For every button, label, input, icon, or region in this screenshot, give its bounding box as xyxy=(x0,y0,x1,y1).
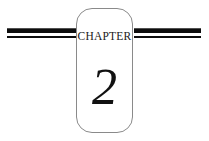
right-thick-rule xyxy=(134,28,201,33)
right-thin-rule xyxy=(134,36,201,38)
chapter-number: 2 xyxy=(76,61,133,113)
chapter-box: CHAPTER 2 xyxy=(76,8,133,133)
left-thin-rule xyxy=(7,36,76,38)
chapter-label: CHAPTER xyxy=(77,31,132,43)
left-thick-rule xyxy=(7,28,76,33)
chapter-heading: CHAPTER 2 xyxy=(0,0,209,141)
